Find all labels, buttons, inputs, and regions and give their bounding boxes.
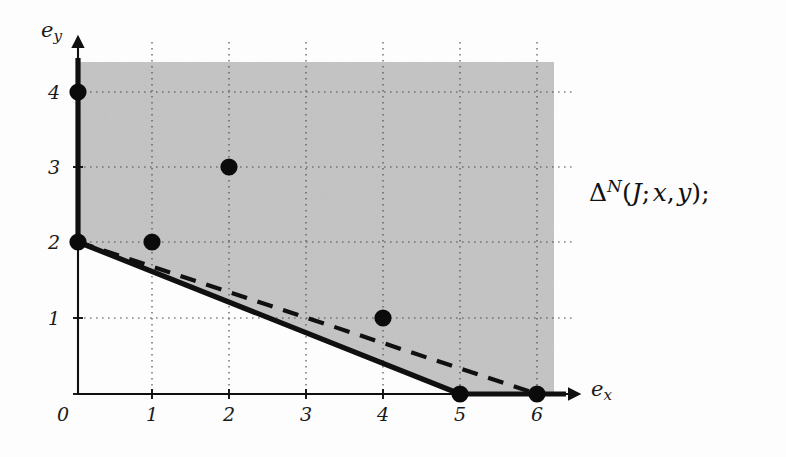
- y-tick-label-1: 1: [34, 307, 60, 329]
- plot-canvas: [0, 0, 786, 457]
- x-tick-label-2: 2: [216, 403, 242, 425]
- x-tick-label-0: 0: [50, 403, 76, 425]
- formula-arg-y: y: [677, 178, 691, 207]
- shaded-region: [78, 62, 554, 394]
- y-axis-label-subscript: y: [53, 27, 62, 45]
- y-tick-label-2: 2: [34, 231, 60, 253]
- x-axis-label: ex: [591, 377, 612, 404]
- formula-arg-x: x: [653, 178, 667, 207]
- data-point: [528, 385, 545, 402]
- formula-comma: ,: [667, 178, 675, 207]
- formula-superscript: N: [607, 176, 622, 196]
- data-point: [69, 83, 86, 100]
- x-axis-label-base: e: [591, 377, 603, 401]
- data-point: [451, 385, 468, 402]
- data-point: [69, 233, 86, 250]
- newton-polygon-figure: ey ex 0 1 2 3 4 5 6 1 2 3 4 ΔN(J; x, y);: [0, 0, 786, 457]
- formula-open-paren: (: [622, 178, 632, 207]
- x-tick-label-3: 3: [293, 403, 319, 425]
- formula-close-paren: ): [691, 178, 701, 207]
- y-axis-label-base: e: [41, 18, 53, 42]
- formula-arg-j: J: [632, 178, 642, 207]
- y-tick-label-3: 3: [34, 156, 60, 178]
- x-tick-label-4: 4: [370, 403, 396, 425]
- y-tick-label-4: 4: [34, 81, 60, 103]
- x-tick-label-5: 5: [447, 403, 473, 425]
- formula-semicolon-end: ;: [701, 178, 709, 207]
- y-axis-label: ey: [41, 18, 62, 45]
- formula-semicolon-inner: ;: [642, 178, 650, 207]
- x-tick-label-6: 6: [524, 403, 550, 425]
- formula-annotation: ΔN(J; x, y);: [589, 176, 710, 207]
- x-axis-label-subscript: x: [603, 386, 612, 404]
- data-point: [143, 233, 160, 250]
- formula-delta: Δ: [589, 178, 607, 207]
- x-tick-label-1: 1: [139, 403, 165, 425]
- data-point: [374, 309, 391, 326]
- data-point: [220, 158, 237, 175]
